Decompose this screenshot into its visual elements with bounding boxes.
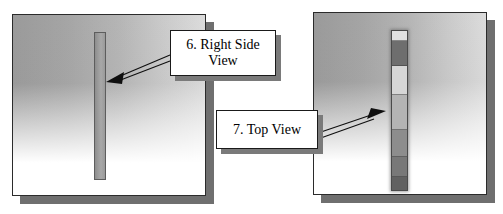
callout-top-view-label: 7. Top View xyxy=(233,122,301,138)
callout-6-line2: View xyxy=(208,53,237,68)
leader-arrow-right-side-view xyxy=(106,55,170,84)
callout-top-view[interactable]: 7. Top View xyxy=(216,110,318,149)
leader-arrow-top-view xyxy=(318,108,386,139)
callout-right-side-view-label: 6. Right Side View xyxy=(186,37,260,69)
figure-canvas: 6. Right Side View 7. Top View xyxy=(0,0,503,214)
callout-right-side-view[interactable]: 6. Right Side View xyxy=(170,30,276,76)
callout-6-line1: 6. Right Side xyxy=(186,37,260,52)
